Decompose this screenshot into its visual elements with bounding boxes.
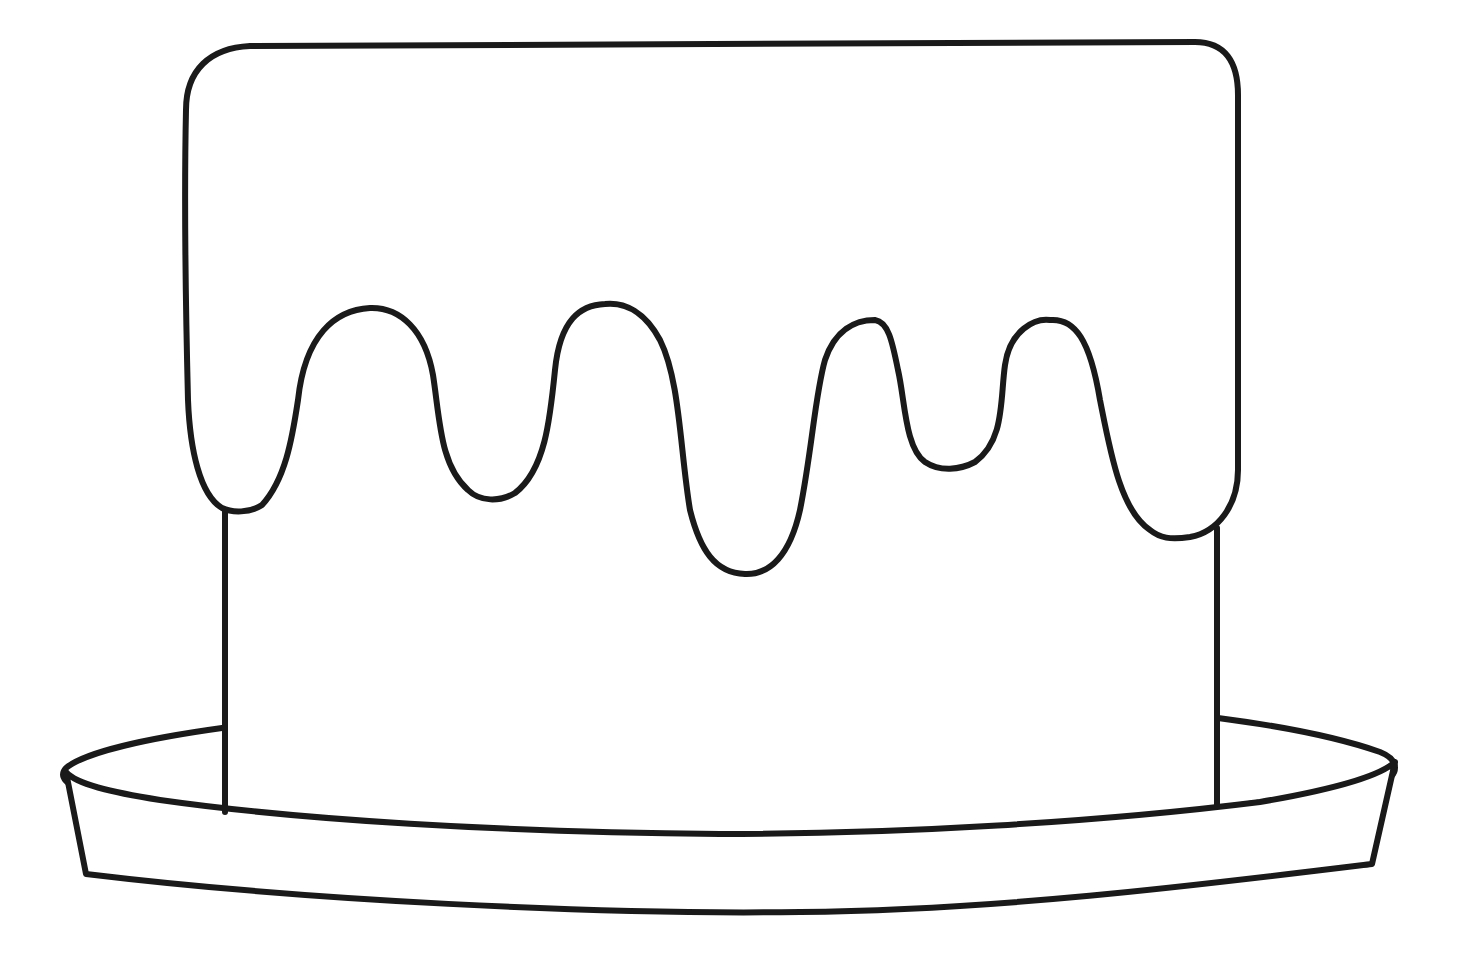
frosting-outline — [185, 42, 1238, 574]
frosting-top — [185, 42, 1238, 574]
cake-drawing — [0, 0, 1459, 969]
cake-plate — [63, 718, 1395, 912]
cake-illustration — [0, 0, 1459, 969]
